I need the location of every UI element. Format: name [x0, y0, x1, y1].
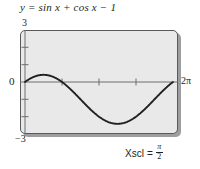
xscl-fraction: π 2 [156, 143, 163, 161]
xscl-caption: Xscl = π 2 [125, 144, 163, 162]
graph-figure: y = sin x + cos x − 1 3 −3 0 2π Xscl = [0, 0, 200, 169]
equation-title: y = sin x + cos x − 1 [20, 1, 116, 13]
x-axis-max-label: 2π [181, 75, 191, 86]
origin-label: 0 [9, 75, 15, 87]
y-axis-max-label: 3 [22, 17, 27, 28]
plot-canvas [20, 30, 178, 134]
xscl-denominator: 2 [156, 153, 162, 161]
xscl-label: Xscl [125, 148, 144, 159]
y-axis-min-label: −3 [15, 133, 26, 144]
xscl-equals: = [147, 148, 153, 159]
xscl-numerator: π [156, 143, 162, 151]
